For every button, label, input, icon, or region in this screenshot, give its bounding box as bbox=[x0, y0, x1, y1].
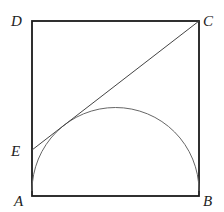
label-b: B bbox=[203, 193, 212, 209]
label-d: D bbox=[10, 13, 22, 29]
label-c: C bbox=[203, 13, 214, 29]
geometry-diagram: D C E A B bbox=[0, 0, 224, 212]
tangent-line-ce bbox=[32, 21, 199, 150]
label-e: E bbox=[10, 143, 20, 159]
semicircle-arc bbox=[32, 108, 199, 191]
label-a: A bbox=[13, 193, 24, 209]
square-abcd bbox=[32, 21, 199, 196]
